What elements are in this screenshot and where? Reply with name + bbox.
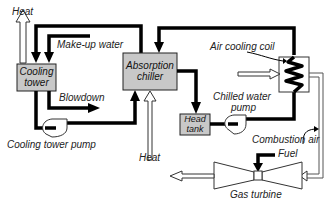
- heat-in-arrow: [144, 91, 156, 160]
- cooling-tower-label-1: Cooling: [20, 67, 54, 78]
- absorption-chiller-label: Absorption chiller: [123, 53, 177, 90]
- cooling-tower-pump: [43, 119, 67, 137]
- air-inlet-arrow: [238, 69, 280, 79]
- arrow-blowdown: [88, 103, 100, 113]
- label-chilled-water-pump-2: pump: [231, 103, 256, 113]
- arrow-into-head-tank: [191, 102, 201, 114]
- label-air-cooling-coil: Air cooling coil: [210, 42, 274, 52]
- heat-out-arrow: [16, 10, 30, 63]
- label-fuel: Fuel: [278, 149, 297, 159]
- label-chilled-water-pump-1: Chilled water: [213, 92, 271, 102]
- label-heat-bottom: Heat: [139, 153, 160, 163]
- absorption-chiller-label-1: Absorption: [126, 61, 174, 72]
- cooling-tower-label: Cooling tower: [17, 64, 56, 91]
- label-blowdown: Blowdown: [59, 93, 105, 103]
- label-cooling-tower-pump: Cooling tower pump: [7, 140, 96, 150]
- absorption-chiller-label-2: chiller: [137, 72, 163, 83]
- diagram-canvas: Heat Make-up water Blowdown Cooling towe…: [0, 0, 334, 203]
- coil-pointer: [247, 52, 283, 61]
- label-gas-turbine: Gas turbine: [230, 190, 282, 200]
- chiller-to-head-tank-line: [177, 71, 196, 103]
- arrow-chilled-return: [154, 42, 164, 53]
- label-makeup-water: Make-up water: [57, 40, 123, 50]
- label-combustion-air: Combustion air: [252, 135, 319, 145]
- arrow-into-cooling-tower: [31, 52, 41, 63]
- head-tank-label-2: tank: [186, 125, 203, 134]
- exhaust-arrow: [170, 171, 214, 181]
- arrow-makeup-water: [44, 52, 54, 63]
- cooling-tower-label-2: tower: [24, 78, 48, 89]
- chilled-water-pump: [225, 115, 246, 134]
- head-tank-label: Head tank: [180, 114, 210, 135]
- label-heat-top: Heat: [12, 7, 33, 17]
- arrow-into-chiller: [130, 90, 140, 101]
